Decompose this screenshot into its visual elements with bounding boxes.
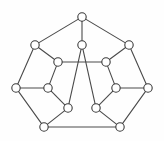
graph-node-lower-right-inner xyxy=(92,104,100,112)
graph-edge xyxy=(86,19,126,43)
graph-edge xyxy=(50,66,57,84)
graph-edge xyxy=(99,91,113,105)
graph-node-right-outer xyxy=(144,84,152,92)
graph-figure xyxy=(0,0,164,141)
graph-edge xyxy=(122,91,145,123)
graph-node-left-inner xyxy=(44,84,52,92)
graph-node-mid-right-inner xyxy=(102,58,110,66)
graph-node-right-inner xyxy=(112,84,120,92)
graph-edge xyxy=(99,111,116,125)
graph-canvas xyxy=(0,0,164,141)
graph-edge xyxy=(108,66,115,84)
edge-layer xyxy=(18,19,147,127)
graph-edge xyxy=(69,49,81,104)
graph-edge xyxy=(39,19,79,43)
graph-edge xyxy=(38,48,54,60)
graph-edge xyxy=(51,91,65,105)
graph-node-left-outer xyxy=(12,84,20,92)
graph-node-bottom-right xyxy=(116,123,124,131)
graph-node-upper-left-outer xyxy=(31,41,39,49)
graph-node-bottom-left xyxy=(40,123,48,131)
graph-edge xyxy=(131,49,147,84)
graph-edge xyxy=(18,91,41,123)
graph-node-mid-left-inner xyxy=(54,58,62,66)
graph-node-upper-center xyxy=(78,41,86,49)
graph-node-apex xyxy=(78,13,86,21)
graph-edge xyxy=(47,111,64,125)
graph-node-upper-right-outer xyxy=(125,41,133,49)
graph-edge xyxy=(109,48,125,60)
graph-node-lower-left-inner xyxy=(64,104,72,112)
graph-edge xyxy=(18,49,34,84)
graph-edge xyxy=(83,49,95,104)
